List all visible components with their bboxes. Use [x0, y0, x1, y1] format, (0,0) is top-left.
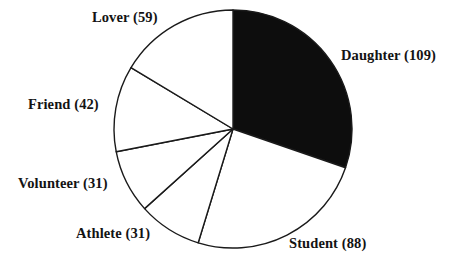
- slice-label-volunteer: Volunteer (31): [18, 176, 108, 191]
- slice-label-daughter: Daughter (109): [341, 48, 436, 63]
- pie-chart-canvas: [0, 0, 461, 277]
- slice-label-student: Student (88): [289, 236, 366, 251]
- pie-slices-group: [114, 10, 352, 248]
- slice-label-lover: Lover (59): [92, 10, 158, 25]
- slice-label-athlete: Athlete (31): [76, 226, 150, 241]
- pie-chart: Daughter (109) Student (88) Athlete (31)…: [0, 0, 461, 277]
- slice-label-friend: Friend (42): [28, 97, 99, 112]
